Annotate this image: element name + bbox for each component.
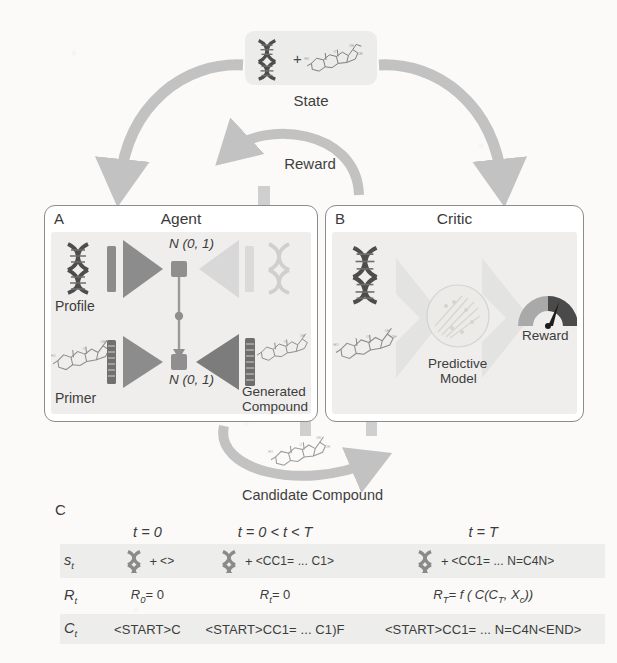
cell-compound-mid: <START>CC1= ... C1)F	[189, 614, 362, 644]
state-box: + O OH OH HO	[245, 31, 377, 85]
candidate-compound-label: Candidate Compound	[205, 487, 420, 503]
smiles-string: <>	[160, 554, 174, 568]
header-corner	[60, 520, 106, 544]
table-header-row: t = 0 t = 0 < t < T t = T	[60, 520, 605, 544]
svg-text:HO: HO	[333, 343, 338, 347]
reward-arc-label: Reward	[240, 155, 380, 172]
table-row-compound: Ct <START>C <START>CC1= ... C1)F <START>…	[60, 614, 605, 644]
timestep-table: t = 0 t = 0 < t < T t = T st	[60, 520, 605, 644]
svg-text:HO: HO	[268, 450, 273, 454]
table-row-state: st + <>	[60, 544, 605, 578]
generated-compound-molecule-icon: O OH	[257, 334, 307, 361]
steroid-molecule-icon: O OH OH HO	[305, 44, 363, 71]
smiles-string: <CC1= ... N=C4N>	[451, 554, 554, 568]
critic-reward-label: Reward	[522, 328, 569, 343]
scatter-circle-icon	[427, 285, 489, 347]
plus-sign: +	[441, 554, 449, 569]
latent-node-top	[171, 261, 187, 277]
state-to-agent-arrow	[120, 65, 243, 182]
svg-text:HO: HO	[51, 354, 56, 358]
panel-b-title: Critic	[326, 210, 583, 228]
col-header-T: t = T	[361, 520, 605, 544]
latent-node-bottom	[171, 354, 187, 370]
svg-text:OH: OH	[349, 44, 353, 48]
svg-text:O: O	[300, 443, 303, 447]
panel-critic: B Critic	[325, 205, 584, 422]
predictive-model-label-line1: Predictive	[428, 356, 487, 371]
plus-sign: +	[150, 554, 158, 569]
critic-molecule-icon: O OH OH HO	[333, 328, 397, 358]
smiles-string: <CC1= ... C1>	[256, 554, 334, 568]
panel-agent: A Agent	[44, 205, 318, 422]
svg-text:O: O	[366, 335, 369, 339]
primer-label: Primer	[55, 390, 96, 406]
state-box-contents: + O OH OH HO	[245, 31, 377, 85]
svg-text:OH: OH	[391, 335, 397, 339]
profile-encoder-triangle	[123, 240, 163, 298]
primer-embedding-bar	[107, 340, 116, 384]
profile-dna-helix-icon	[68, 244, 88, 293]
cell-reward-mid: Rt= 0	[189, 578, 362, 614]
gauge-icon	[518, 296, 577, 329]
predictive-model-label-line2: Model	[440, 371, 477, 386]
cell-state-t0: + <>	[106, 544, 189, 578]
generated-compound-label-line1: Generated	[242, 384, 306, 399]
svg-text:O: O	[83, 347, 86, 351]
panel-b-body: O OH OH HO	[332, 232, 577, 414]
cell-compound-t0: <START>C	[106, 614, 189, 644]
col-header-t0: t = 0	[106, 520, 189, 544]
cell-state-mid: + <CC1= ... C1>	[189, 544, 362, 578]
row-label-reward: Rt	[60, 578, 106, 614]
dna-helix-icon	[216, 549, 242, 573]
critic-architecture-diagram: O OH OH HO	[332, 232, 577, 414]
latent-midpoint-dot	[175, 312, 183, 320]
profile-label: Profile	[55, 298, 95, 314]
svg-text:O: O	[334, 50, 337, 54]
arrow-nub-agent	[258, 186, 270, 206]
profile-output-dna-helix-icon	[269, 244, 289, 293]
svg-text:OH: OH	[300, 334, 305, 338]
critic-dna-helix-icon	[353, 248, 376, 303]
svg-text:OH: OH	[316, 436, 321, 440]
cell-compound-T: <START>CC1= ... N=C4N<END>	[361, 614, 605, 644]
panel-a-body: O OH HO	[51, 232, 311, 414]
latent-bottom-label: N (0, 1)	[169, 372, 214, 387]
state-label: State	[245, 92, 377, 109]
col-header-mid: t = 0 < t < T	[189, 520, 362, 544]
profile-embedding-bar	[107, 246, 116, 292]
row-label-state: st	[60, 544, 106, 578]
state-to-critic-arrow	[379, 65, 502, 182]
svg-text:OH: OH	[101, 340, 107, 344]
table-row-reward: Rt R0= 0 Rt= 0 RT= f ( C(CT, Xc))	[60, 578, 605, 614]
dna-helix-icon	[121, 549, 147, 573]
profile-decoder-bar	[245, 246, 254, 292]
dna-helix-icon	[412, 549, 438, 573]
panel-c-letter: C	[55, 501, 66, 518]
dna-helix-icon	[259, 41, 276, 80]
svg-text:OH: OH	[358, 52, 362, 56]
primer-molecule-icon: O OH HO	[51, 340, 109, 370]
row-label-compound: Ct	[60, 614, 106, 644]
panel-a-title: Agent	[45, 210, 317, 228]
cell-reward-t0: R0= 0	[106, 578, 189, 614]
plus-sign: +	[245, 554, 253, 569]
candidate-compound-molecule-icon: O OH OH HO	[258, 427, 368, 485]
plus-sign: +	[293, 50, 302, 67]
latent-top-label: N (0, 1)	[169, 236, 214, 251]
svg-text:OH: OH	[325, 445, 330, 449]
svg-text:OH: OH	[385, 329, 391, 333]
cell-reward-T: RT= f ( C(CT, Xc))	[361, 578, 605, 614]
svg-text:HO: HO	[305, 57, 310, 61]
cell-state-T: + <CC1= ... N=C4N>	[361, 544, 605, 578]
primer-encoder-triangle	[123, 336, 163, 388]
generated-compound-label-line2: Compound	[242, 399, 308, 414]
